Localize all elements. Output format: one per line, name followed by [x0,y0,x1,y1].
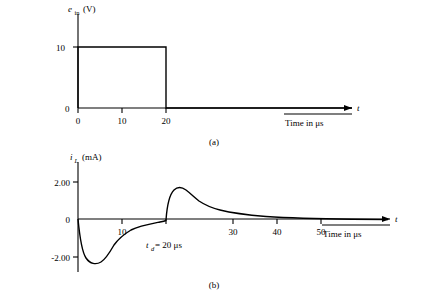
panel-a-caption: (a) [209,137,219,147]
panel-a-x-ticklabel-20: 20 [162,116,172,126]
panel-b-y-label-units: (mA) [82,152,102,162]
panel-b-y-ticklabel-0: 0 [66,215,71,225]
panel-b-y-axis-label: i L (mA) [70,152,102,164]
panel-a-y-label-sub: in [75,9,81,16]
panel-b-x-ticklabel-30: 30 [229,227,239,237]
panel-b-y-label-sub: L [74,157,79,164]
panel-a-x-ticklabel-10: 10 [118,116,128,126]
panel-b-annotation-rest: = 20 μs [155,240,182,250]
panel-b-y-label-main: i [70,152,73,162]
panel-a-x-axis-symbol: t [357,103,360,113]
panel-b-y-ticklabel-neg2: -2.00 [51,253,70,263]
panel-b-x-axis-label: Time in μs [323,229,362,239]
figure-svg: e in (V) 10 0 0 10 20 t Time in μs [0,0,428,299]
panel-a-y-label-main: e [68,4,72,14]
panel-b-caption: (b) [209,280,220,290]
panel-a-x-axis-label: Time in μs [285,118,324,128]
panel-a-curve-ein [78,47,352,108]
panel-b-annotation-main: t [146,240,149,250]
panel-b-x-ticklabel-40: 40 [273,227,283,237]
panel-b: i L (mA) 2.00 0 -2.00 10 30 40 50 t [51,152,398,290]
panel-a-x-ticklabel-0: 0 [76,116,81,126]
panel-a: e in (V) 10 0 0 10 20 t Time in μs [56,4,360,147]
panel-b-y-ticklabel-2: 2.00 [54,178,70,188]
figure-container: e in (V) 10 0 0 10 20 t Time in μs [0,0,428,299]
panel-b-annotation-td: t d = 20 μs [146,240,182,252]
panel-a-y-ticklabel-0: 0 [65,104,70,114]
panel-b-x-axis-symbol: t [395,214,398,224]
panel-a-y-label-units: (V) [83,4,96,14]
panel-a-y-ticklabel-10: 10 [56,43,66,53]
panel-a-y-axis-label: e in (V) [68,4,96,16]
